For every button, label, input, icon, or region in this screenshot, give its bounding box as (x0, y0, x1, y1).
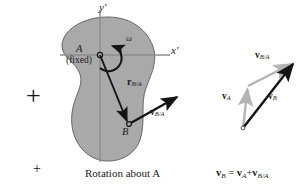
r-ba-label: rB/A (127, 77, 142, 88)
v-ba-label-right: vB/A (255, 51, 269, 61)
x-axis-label: x′ (171, 45, 178, 56)
v-ba-label-left: vB/A (150, 108, 164, 118)
equation-equals: = (228, 167, 234, 178)
relative-velocity-diagram (0, 0, 307, 191)
v-b-label-sub: B (273, 94, 277, 101)
v-a-label: vA (222, 92, 231, 102)
v-ba-label-left-sub: B/A (155, 110, 165, 117)
point-b-label: B (122, 127, 128, 138)
equation-term2-sub: B/A (258, 172, 269, 180)
v-b-label: vB (268, 92, 277, 102)
rigid-body-shape (62, 17, 155, 161)
plus-sign-small: + (33, 162, 41, 176)
omega-label: ω (126, 34, 132, 43)
velocity-equation: vB = vA+vB/A (216, 168, 268, 180)
r-ba-label-sub: B/A (131, 80, 141, 87)
figure-caption: Rotation about A (85, 168, 160, 179)
plus-sign-large: + (26, 83, 41, 109)
point-a-fixed-note: (fixed) (66, 56, 92, 66)
y-axis-label: y′ (99, 2, 106, 13)
equation-lhs-sub: B (221, 172, 225, 180)
figure-caption-text: Rotation about A (85, 167, 160, 179)
v-ba-label-right-sub: B/A (260, 53, 270, 60)
v-a-label-sub: A (227, 94, 231, 101)
triangle-tail-marker (241, 126, 245, 130)
point-a-label: A (76, 44, 82, 55)
